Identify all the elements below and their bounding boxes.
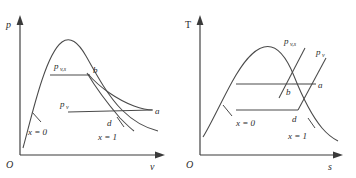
pv-pressure-low-base: p [59,99,65,109]
ts-diagram-panel: T s O x = 0 x = 1 p v,s p v b a d [178,0,356,178]
pv-quality-zero-label: x = 0 [27,127,48,137]
ts-pressure-high-sub: v,s [290,41,297,47]
ts-saturation-dome [203,47,338,141]
pv-pressure-high-base: p [53,61,59,71]
ts-point-a-label: a [318,80,323,90]
ts-pressure-low-label: p v [315,47,325,58]
ts-point-d-label: d [292,114,297,124]
pv-pressure-high-label: p v,s [53,61,67,72]
ts-x-axis [200,152,343,159]
ts-tick-x0 [223,105,232,116]
ts-x-axis-label: s [328,161,332,172]
pv-y-axis [17,15,24,155]
ts-point-b-label: b [286,87,291,97]
thermodynamic-diagram-figure: p v O x = 0 x = 1 p v,s p v b a d [0,0,356,178]
ts-y-axis [197,15,204,155]
ts-quality-zero-label: x = 0 [235,118,256,128]
pv-y-axis-label: p [5,19,11,30]
pv-point-b-label: b [93,65,98,75]
pv-x-axis-label: v [150,161,155,172]
ts-origin-label: O [186,159,193,170]
ts-y-axis-label: T [185,19,191,30]
pv-quality-one-label: x = 1 [97,132,117,142]
pv-pressure-high-sub: v,s [60,66,67,72]
ts-pressure-high-base: p [283,36,289,46]
pv-expansion-b-a [88,74,153,110]
pv-x-axis [20,152,165,159]
ts-pressure-high-label: p v,s [283,36,297,47]
pv-tick-x0 [32,112,41,122]
ts-pressure-low-sub: v [322,52,325,58]
ts-tick-x1 [308,118,315,128]
pv-diagram-panel: p v O x = 0 x = 1 p v,s p v b a d [0,0,178,178]
pv-pressure-low-label: p v [59,99,69,110]
pv-point-d-label: d [107,118,112,128]
ts-quality-one-label: x = 1 [287,131,307,141]
ts-pressure-low-base: p [315,47,321,57]
pv-pressure-low-sub: v [66,104,69,110]
pv-isobar-low [68,110,152,112]
pv-origin-label: O [6,159,13,170]
pv-point-a-label: a [155,106,160,116]
